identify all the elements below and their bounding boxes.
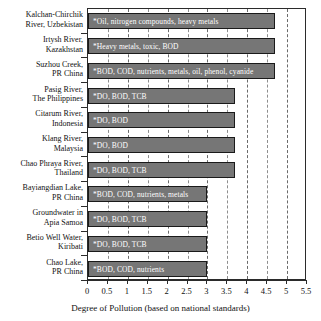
- bar-value-label: *DO, BOD: [93, 141, 128, 150]
- y-axis-label-line: Kazakhstan: [0, 45, 83, 55]
- y-axis-label: Irtysh River,Kazakhstan: [0, 35, 83, 54]
- y-axis-tick: [81, 255, 87, 256]
- y-axis-label-line: Indonesia: [0, 119, 83, 129]
- y-axis-label-line: Citarum River,: [0, 109, 83, 119]
- x-axis-tick: [266, 280, 267, 284]
- bar[interactable]: *Heavy metals, toxic, BOD: [88, 38, 275, 54]
- bar[interactable]: *BOD, COD, nutrients: [88, 261, 207, 277]
- y-axis-label-line: Chao Phraya River,: [0, 159, 83, 169]
- y-axis-label-line: Betio Well Water,: [0, 233, 83, 243]
- y-axis-tick: [81, 107, 87, 108]
- y-axis-label: Bayiangdian Lake,PR China: [0, 183, 83, 202]
- y-axis-label: Suzhou Creek,PR China: [0, 60, 83, 79]
- plot-area: *Oil, nitrogen compounds, heavy metals*H…: [87, 8, 306, 280]
- y-axis-label: Citarum River,Indonesia: [0, 109, 83, 128]
- bar-value-label: *DO, BOD: [93, 116, 128, 125]
- y-axis-label-line: Suzhou Creek,: [0, 60, 83, 70]
- y-axis-label-line: Kalchan-Chirchik: [0, 10, 83, 20]
- bar-row: *DO, BOD, TCB: [88, 88, 306, 104]
- bar-row: *DO, BOD: [88, 112, 306, 128]
- x-axis-tick: [107, 280, 108, 284]
- y-axis-label: Chao Lake,PR China: [0, 258, 83, 277]
- x-axis-tick: [246, 280, 247, 284]
- y-axis-label: Kalchan-ChirchikRiver, Uzbekistan: [0, 10, 83, 29]
- x-axis-tick: [206, 280, 207, 284]
- y-axis-label-line: Klang River,: [0, 134, 83, 144]
- y-axis-tick: [81, 33, 87, 34]
- y-axis-label-line: Irtysh River,: [0, 35, 83, 45]
- y-axis-label-line: Groundwater in: [0, 208, 83, 218]
- bar[interactable]: *BOD, COD, nutrients, metals, oil, pheno…: [88, 63, 275, 79]
- y-axis-label-line: Thailand: [0, 168, 83, 178]
- bar[interactable]: *DO, BOD: [88, 112, 235, 128]
- y-axis-label-line: The Philippines: [0, 94, 83, 104]
- bar-value-label: *Heavy metals, toxic, BOD: [93, 42, 179, 51]
- bar-row: *DO, BOD: [88, 137, 306, 153]
- x-axis-tick: [147, 280, 148, 284]
- bar[interactable]: *Oil, nitrogen compounds, heavy metals: [88, 13, 275, 29]
- x-axis-tick: [286, 280, 287, 284]
- bar-row: *BOD, COD, nutrients, metals: [88, 186, 306, 202]
- y-axis-label-line: River, Uzbekistan: [0, 20, 83, 30]
- bar-value-label: *BOD, COD, nutrients, metals, oil, pheno…: [93, 66, 253, 75]
- y-axis-tick: [81, 132, 87, 133]
- pollution-bar-chart: *Oil, nitrogen compounds, heavy metals*H…: [0, 0, 321, 321]
- y-axis-label-line: PR China: [0, 267, 83, 277]
- bar-value-label: *BOD, COD, nutrients: [93, 264, 164, 273]
- y-axis-label: Klang River,Malaysia: [0, 134, 83, 153]
- y-axis-label: Chao Phraya River,Thailand: [0, 159, 83, 178]
- y-axis-tick: [81, 156, 87, 157]
- bar[interactable]: *DO, BOD, TCB: [88, 236, 207, 252]
- x-axis-line: [87, 280, 306, 281]
- x-axis-tick: [87, 280, 88, 284]
- y-axis-label-line: PR China: [0, 69, 83, 79]
- bar-value-label: *BOD, COD, nutrients, metals: [93, 190, 188, 199]
- bar-row: *BOD, COD, nutrients, metals, oil, pheno…: [88, 63, 306, 79]
- bar-row: *BOD, COD, nutrients: [88, 261, 306, 277]
- y-axis-label-line: Bayiangdian Lake,: [0, 183, 83, 193]
- bar[interactable]: *DO, BOD, TCB: [88, 211, 207, 227]
- bar-value-label: *DO, BOD, TCB: [93, 239, 147, 248]
- y-axis-label-line: Apia Samoa: [0, 218, 83, 228]
- bar-row: *Heavy metals, toxic, BOD: [88, 38, 306, 54]
- x-axis-title: Degree of Pollution (based on national s…: [0, 303, 321, 313]
- x-axis-tick-label: 5.5: [291, 286, 321, 296]
- bar-value-label: *Oil, nitrogen compounds, heavy metals: [93, 17, 218, 26]
- y-axis-label: Groundwater inApia Samoa: [0, 208, 83, 227]
- y-axis-tick: [81, 206, 87, 207]
- bar[interactable]: *DO, BOD, TCB: [88, 162, 235, 178]
- bar[interactable]: *BOD, COD, nutrients, metals: [88, 186, 207, 202]
- x-axis-tick: [127, 280, 128, 284]
- x-axis-tick: [187, 280, 188, 284]
- bar-row: *DO, BOD, TCB: [88, 162, 306, 178]
- y-axis-tick: [81, 181, 87, 182]
- y-axis-label: Pasig River,The Philippines: [0, 85, 83, 104]
- y-axis-label-line: PR China: [0, 193, 83, 203]
- y-axis-tick: [81, 231, 87, 232]
- bar-row: *DO, BOD, TCB: [88, 236, 306, 252]
- y-axis-label-line: Chao Lake,: [0, 258, 83, 268]
- x-axis-tick: [167, 280, 168, 284]
- x-axis-tick: [226, 280, 227, 284]
- bar[interactable]: *DO, BOD: [88, 137, 235, 153]
- bar[interactable]: *DO, BOD, TCB: [88, 88, 235, 104]
- bar-row: *Oil, nitrogen compounds, heavy metals: [88, 13, 306, 29]
- y-axis-tick: [81, 57, 87, 58]
- y-axis-label-line: Kiribati: [0, 242, 83, 252]
- y-axis-label-line: Pasig River,: [0, 85, 83, 95]
- y-axis-label: Betio Well Water,Kiribati: [0, 233, 83, 252]
- bar-row: *DO, BOD, TCB: [88, 211, 306, 227]
- bar-value-label: *DO, BOD, TCB: [93, 215, 147, 224]
- bar-value-label: *DO, BOD, TCB: [93, 91, 147, 100]
- y-axis-tick: [81, 82, 87, 83]
- y-axis-label-line: Malaysia: [0, 144, 83, 154]
- x-axis-tick: [306, 280, 307, 284]
- bar-value-label: *DO, BOD, TCB: [93, 165, 147, 174]
